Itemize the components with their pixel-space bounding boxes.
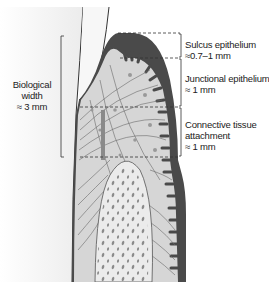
right-brackets	[179, 34, 181, 156]
biological-width-label: Biological width ≈ 3 mm	[6, 79, 58, 112]
connective-tissue-label: Connective tissue attachment ≈ 1 mm	[185, 119, 257, 152]
biological-width-line2: width	[6, 90, 58, 101]
tooth	[0, 7, 83, 282]
junctional-epithelium-name: Junctional epithelium	[185, 73, 269, 84]
connective-tissue-name2: attachment	[185, 130, 257, 141]
biological-width-line1: Biological	[6, 79, 58, 90]
connective-tissue-name: Connective tissue	[185, 119, 257, 130]
connective-tissue-value: ≈ 1 mm	[185, 141, 257, 152]
biological-width-line3: ≈ 3 mm	[6, 101, 58, 112]
junctional-epithelium-value: ≈ 1 mm	[185, 84, 269, 95]
sulcus-epithelium-name: Sulcus epithelium	[185, 39, 256, 50]
sulcus-epithelium-label: Sulcus epithelium ≈0.7–1 mm	[185, 39, 256, 61]
junctional-epithelium-label: Junctional epithelium ≈ 1 mm	[185, 73, 269, 95]
sulcus-epithelium-value: ≈0.7–1 mm	[185, 50, 256, 61]
